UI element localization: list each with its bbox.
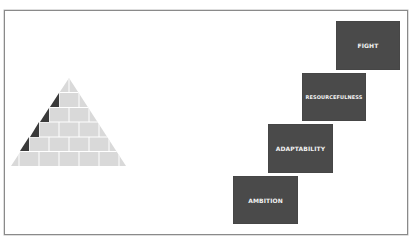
step-label: AMBITION: [248, 197, 283, 204]
step-ambition: AMBITION: [233, 176, 298, 224]
step-resourcefulness: RESOURCEFULNESS: [302, 73, 366, 121]
step-label: ADAPTABILITY: [276, 145, 325, 152]
pyramid-bricks: [0, 70, 140, 170]
step-label: FIGHT: [358, 42, 379, 49]
step-fight: FIGHT: [336, 21, 400, 70]
step-label: RESOURCEFULNESS: [306, 94, 363, 100]
step-adaptability: ADAPTABILITY: [268, 124, 333, 173]
